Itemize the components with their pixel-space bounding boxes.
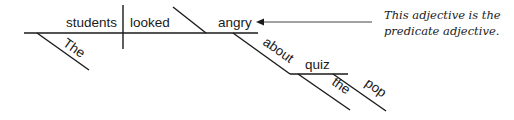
annotation-line-2: predicate adjective. <box>384 23 514 39</box>
word-object-modifier-the: the <box>329 74 353 97</box>
word-preposition: about <box>260 34 296 66</box>
annotation-note: This adjective is the predicate adjectiv… <box>384 7 514 39</box>
word-object: quiz <box>305 57 330 72</box>
word-predicate-adjective: angry <box>218 15 252 30</box>
predicate-adjective-slash <box>173 7 206 33</box>
arrowhead-icon <box>256 19 264 26</box>
annotation-line-1: This adjective is the <box>384 7 514 23</box>
word-verb: looked <box>130 15 170 30</box>
word-subject: students <box>66 15 117 30</box>
word-the-modifier: The <box>60 35 88 61</box>
